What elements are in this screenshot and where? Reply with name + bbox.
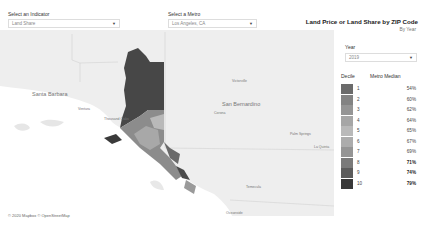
page-subtitle: By Year <box>399 27 416 32</box>
legend-decile: 8 <box>357 160 360 165</box>
legend-swatch <box>341 105 353 115</box>
legend-median: 62% <box>407 107 416 112</box>
indicator-value: Land Share <box>12 21 35 26</box>
legend-median: 74% <box>407 170 416 175</box>
legend-row[interactable]: 154% <box>340 84 418 94</box>
indicator-dropdown[interactable]: Land Share ▼ <box>8 19 120 28</box>
legend-decile: 6 <box>357 139 360 144</box>
legend-swatch <box>341 179 353 189</box>
place-label: Ventura <box>78 107 90 111</box>
legend-decile-header: Decile <box>341 73 355 79</box>
place-label: Victorville <box>232 79 247 83</box>
legend-swatch <box>341 95 353 105</box>
year-label: Year <box>345 44 355 50</box>
legend-swatch <box>341 158 353 168</box>
legend-median-header: Metro Median <box>370 73 401 79</box>
legend-row[interactable]: 667% <box>340 137 418 147</box>
indicator-label: Select an Indicator <box>8 11 49 17</box>
place-label: Corona <box>214 111 226 115</box>
legend-swatch <box>341 137 353 147</box>
legend-median: 64% <box>407 118 416 123</box>
place-label: Palm Springs <box>290 132 311 136</box>
legend-decile: 4 <box>357 118 360 123</box>
legend-decile: 2 <box>357 97 360 102</box>
place-label: Oceanside <box>226 211 243 215</box>
legend-decile: 7 <box>357 149 360 154</box>
legend-median: 79% <box>407 181 416 186</box>
metro-dropdown[interactable]: Los Angeles, CA ▼ <box>168 19 257 28</box>
year-value: 2019 <box>349 55 359 60</box>
legend-median: 60% <box>407 97 416 102</box>
metro-value: Los Angeles, CA <box>172 21 205 26</box>
legend-row[interactable]: 769% <box>340 147 418 157</box>
page-title: Land Price or Land Share by ZIP Code <box>306 18 418 25</box>
legend-decile: 5 <box>357 128 360 133</box>
place-label: Temecula <box>246 185 261 189</box>
legend-swatch <box>341 116 353 126</box>
legend-decile: 3 <box>357 107 360 112</box>
legend-median: 54% <box>407 86 416 91</box>
map-attribution[interactable]: © 2020 Mapbox © OpenStreetMap <box>8 213 70 218</box>
legend-row[interactable]: 260% <box>340 95 418 105</box>
legend-swatch <box>341 126 353 136</box>
legend-decile: 9 <box>357 170 360 175</box>
legend-row[interactable]: 1079% <box>340 179 418 189</box>
legend-row[interactable]: 464% <box>340 116 418 126</box>
legend-decile: 10 <box>357 181 362 186</box>
legend-row[interactable]: 565% <box>340 126 418 136</box>
chevron-down-icon: ▼ <box>409 54 413 61</box>
chevron-down-icon: ▼ <box>112 20 116 27</box>
choropleth-map[interactable]: Santa Barbara Ventura Thousand Oaks Vict… <box>0 30 334 216</box>
legend-median: 65% <box>407 128 416 133</box>
legend-swatch <box>341 147 353 157</box>
legend-median: 67% <box>407 139 416 144</box>
legend-row[interactable]: 362% <box>340 105 418 115</box>
legend-median: 71% <box>407 160 416 165</box>
place-label: Thousand Oaks <box>104 117 129 121</box>
legend-median: 69% <box>407 149 416 154</box>
place-label: Santa Barbara <box>32 91 68 97</box>
legend-swatch <box>341 168 353 178</box>
legend-decile: 1 <box>357 86 360 91</box>
chevron-down-icon: ▼ <box>249 20 253 27</box>
year-dropdown[interactable]: 2019 ▼ <box>345 53 417 62</box>
place-label: La Quinta <box>314 145 329 149</box>
legend-swatch <box>341 84 353 94</box>
legend-row[interactable]: 871% <box>340 158 418 168</box>
legend-row[interactable]: 974% <box>340 168 418 178</box>
metro-label: Select a Metro <box>168 11 200 17</box>
place-label: San Bernardino <box>222 101 260 107</box>
